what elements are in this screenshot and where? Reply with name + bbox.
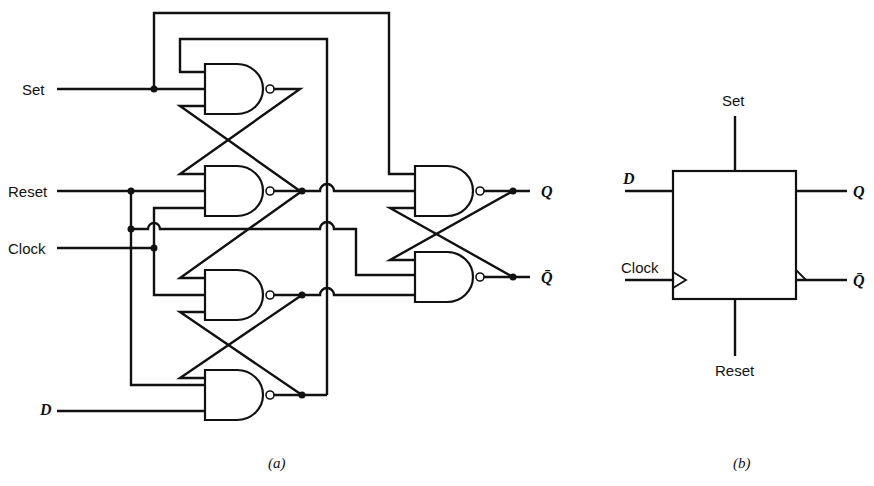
inverter-bubble-5	[476, 187, 484, 195]
clock-junction	[151, 245, 158, 252]
qbar-output-label: Q̄	[541, 269, 553, 287]
panel-a-circuit: Set Reset Clock D	[8, 13, 553, 472]
q-label: Q	[853, 183, 865, 200]
clock-to-gate2-gate3-wire	[154, 208, 205, 295]
panel-b-block-symbol: Set Reset D Clock Q Q̄ (b)	[621, 92, 865, 472]
nand-gate-2	[205, 166, 263, 216]
qbar-junction	[510, 274, 517, 281]
reset-input-label: Reset	[8, 183, 48, 200]
clock-label: Clock	[621, 259, 659, 276]
d-label: D	[622, 170, 635, 187]
flip-flop-block	[673, 171, 796, 299]
panel-b-caption: (b)	[733, 455, 751, 472]
set-label: Set	[722, 92, 745, 109]
inverter-bubble-6	[476, 273, 484, 281]
set-junction	[151, 86, 158, 93]
nand-gate-3	[205, 270, 263, 320]
nand-gate-4	[205, 370, 263, 420]
d-flip-flop-figure: Set Reset Clock D	[0, 0, 874, 486]
inverter-bubble-4	[266, 391, 274, 399]
reset-vertical-wire	[131, 191, 205, 385]
d-input-label: D	[39, 401, 52, 418]
nand-gate-6	[415, 252, 473, 302]
nand-gate-5	[415, 166, 473, 216]
inverter-bubble-3	[266, 291, 274, 299]
reset-label: Reset	[715, 362, 755, 379]
reset-to-gate6-wire	[131, 222, 415, 275]
inverter-bubble-1	[266, 85, 274, 93]
nand-gate-1	[205, 64, 263, 114]
qbar-label: Q̄	[853, 272, 865, 290]
gate3-output-wire	[274, 288, 415, 295]
set-input-label: Set	[22, 81, 45, 98]
q-output-label: Q	[541, 183, 553, 200]
clock-input-label: Clock	[8, 240, 46, 257]
set-to-output-latch-wire	[154, 13, 415, 174]
inverter-bubble-2	[266, 187, 274, 195]
panel-a-caption: (a)	[268, 455, 286, 472]
qbar-tick-icon	[796, 270, 806, 280]
reset-branch-junction	[128, 226, 135, 233]
gate4-output-junction	[299, 392, 306, 399]
